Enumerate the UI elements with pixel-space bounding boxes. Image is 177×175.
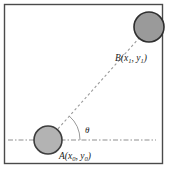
node-b-circle — [134, 12, 164, 42]
node-a-circle — [34, 126, 62, 154]
diagram-canvas: B(x1, y1) A(x0, y0) θ — [0, 0, 177, 175]
theta-label: θ — [85, 125, 90, 135]
geometry-figure: B(x1, y1) A(x0, y0) θ — [0, 0, 177, 175]
